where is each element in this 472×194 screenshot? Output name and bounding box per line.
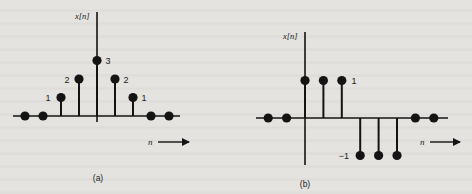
- stem-marker: [429, 113, 438, 122]
- stem-marker: [319, 76, 328, 85]
- xlabel-b: n: [420, 137, 425, 147]
- stem-marker: [128, 93, 137, 102]
- ylabel-b: x[n]: [282, 31, 298, 41]
- stem-marker: [110, 74, 119, 83]
- stem-marker: [411, 113, 420, 122]
- value-label-b-pos1: 1: [351, 76, 356, 86]
- xlabel-a: n: [148, 137, 153, 147]
- stem-plot-a: x[n] 1 2 3 2 1 n (a): [13, 11, 189, 183]
- stem-marker: [374, 151, 383, 160]
- stem-marker: [56, 93, 65, 102]
- value-label-a-n0: 3: [105, 56, 110, 66]
- stems-a: [20, 56, 173, 121]
- stem-marker: [146, 111, 155, 120]
- stem-marker: [392, 151, 401, 160]
- ylabel-a-text: x[n]: [74, 11, 90, 21]
- stem-marker: [337, 76, 346, 85]
- stem-marker: [300, 76, 309, 85]
- ylabel-b-text: x[n]: [282, 31, 298, 41]
- stem-marker: [74, 74, 83, 83]
- stem-marker: [264, 113, 273, 122]
- value-label-a-n1: 2: [123, 75, 128, 85]
- stem-marker: [20, 111, 29, 120]
- panel-label-b: (b): [300, 179, 311, 189]
- ylabel-a: x[n]: [74, 11, 90, 21]
- value-label-a-n2: 1: [141, 93, 146, 103]
- stem-marker: [282, 113, 291, 122]
- stem-marker: [38, 111, 47, 120]
- stem-plot-b: x[n] 1 −1 n (b): [256, 31, 460, 189]
- value-label-a-n-2: 1: [45, 93, 50, 103]
- value-label-a-n-1: 2: [64, 75, 69, 85]
- panel-label-a: (a): [93, 173, 104, 183]
- stem-marker: [164, 111, 173, 120]
- value-label-b-neg1: −1: [339, 151, 349, 161]
- figure-canvas: x[n] 1 2 3 2 1 n (a) x[n] 1 −1 n (b): [0, 0, 472, 194]
- stem-marker: [356, 151, 365, 160]
- stem-marker: [92, 56, 101, 65]
